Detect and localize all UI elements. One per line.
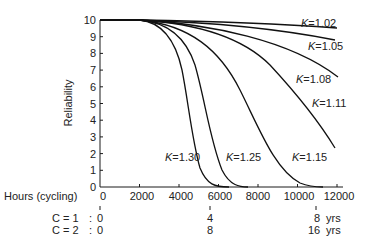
x-tick-12000: 12000 (324, 190, 355, 202)
c1-colon: : (89, 212, 92, 224)
c1-tick-0: 0 (97, 212, 103, 224)
c1-tick-8: 8 (314, 212, 320, 224)
x-tick-0: 0 (100, 190, 106, 202)
y-tick-10: 10 (84, 14, 96, 26)
c2-row: C = 2 : 0 8 16 yrs (52, 224, 341, 236)
c1-row: C = 1 : 0 4 8 yrs (52, 212, 341, 224)
y-tick-2: 2 (90, 148, 96, 160)
c2-tick-8: 8 (207, 224, 213, 236)
c2-tick-0: 0 (97, 224, 103, 236)
c2-tick-16: 16 (308, 224, 320, 236)
x-tick-2000: 2000 (130, 190, 154, 202)
y-tick-4: 4 (90, 114, 96, 126)
c1-tick-4: 4 (207, 212, 213, 224)
c1-label: C = 1 (52, 212, 79, 224)
label-k-1.15: K=1.15 (292, 151, 327, 163)
c2-colon: : (89, 224, 92, 236)
x-tick-10000: 10000 (284, 190, 315, 202)
x-tick-labels: Hours (cycling) 0 2000 4000 6000 8000 10… (4, 190, 354, 202)
curve-k-1.15 (100, 20, 323, 187)
secondary-ticks (100, 206, 316, 210)
y-tick-9: 9 (90, 31, 96, 43)
x-axis-label: Hours (cycling) (4, 190, 77, 202)
y-tick-labels: 10 9 8 7 6 5 4 3 2 1 0 (84, 14, 96, 193)
x-tick-8000: 8000 (246, 190, 270, 202)
y-tick-8: 8 (90, 47, 96, 59)
y-axis-label: Reliability (62, 79, 74, 127)
label-k-1.11: K=1.11 (312, 97, 346, 109)
y-tick-3: 3 (90, 131, 96, 143)
x-tick-4000: 4000 (169, 190, 193, 202)
x-tick-6000: 6000 (208, 190, 232, 202)
c2-unit: yrs (326, 224, 341, 236)
label-k-1.05: K=1.05 (308, 40, 343, 52)
y-tick-5: 5 (90, 98, 96, 110)
y-tick-1: 1 (90, 164, 96, 176)
c2-label: C = 2 (52, 224, 79, 236)
label-k-1.30: K=1.30 (165, 151, 200, 163)
label-k-1.02: K=1.02 (301, 17, 336, 29)
y-tick-7: 7 (90, 64, 96, 76)
y-tick-6: 6 (90, 81, 96, 93)
y-tick-0: 0 (90, 181, 96, 193)
label-k-1.08: K=1.08 (296, 73, 331, 85)
c1-unit: yrs (326, 212, 341, 224)
reliability-chart: 10 9 8 7 6 5 4 3 2 1 0 Reliability Hours… (0, 0, 367, 247)
label-k-1.25: K=1.25 (226, 151, 261, 163)
